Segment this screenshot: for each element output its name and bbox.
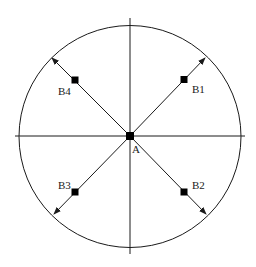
marker-b2	[181, 189, 188, 196]
marker-b4	[72, 77, 79, 84]
marker-b3	[72, 189, 79, 196]
arrow-to-b3	[54, 136, 130, 214]
arrow-to-b1	[130, 58, 205, 136]
marker-a	[126, 132, 134, 140]
label-a: A	[132, 143, 140, 155]
label-b2: B2	[192, 179, 205, 191]
marker-b1	[181, 76, 188, 83]
label-b1: B1	[192, 83, 205, 95]
radial-diagram: A B1 B2 B3 B4	[0, 0, 256, 267]
label-b4: B4	[58, 85, 71, 97]
arrow-to-b4	[52, 58, 130, 136]
arrow-to-b2	[130, 136, 206, 214]
label-b3: B3	[58, 179, 71, 191]
